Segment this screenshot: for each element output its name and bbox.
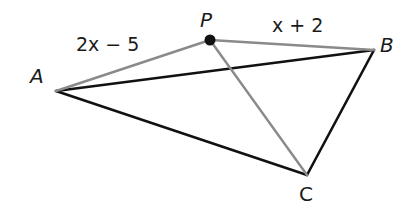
segment-ac bbox=[56, 91, 307, 175]
label-c: C bbox=[299, 182, 313, 206]
label-a: A bbox=[28, 64, 44, 88]
segment-bc bbox=[307, 50, 374, 175]
point-p-dot bbox=[205, 35, 216, 46]
label-b: B bbox=[380, 33, 394, 57]
segment-ab bbox=[56, 50, 374, 91]
segment-pb bbox=[210, 40, 374, 50]
label-ap-length: 2x − 5 bbox=[76, 33, 139, 55]
label-p: P bbox=[200, 8, 213, 32]
geometry-diagram: A P B C 2x − 5 x + 2 bbox=[0, 0, 415, 215]
diagram-svg: A P B C 2x − 5 x + 2 bbox=[0, 0, 415, 215]
label-pb-length: x + 2 bbox=[272, 14, 323, 36]
